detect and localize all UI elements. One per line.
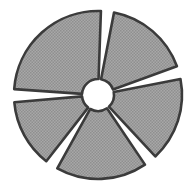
segmented-circle-diagram <box>0 0 196 190</box>
figure-canvas: Segmented circle diagram A circle divide… <box>0 0 196 190</box>
